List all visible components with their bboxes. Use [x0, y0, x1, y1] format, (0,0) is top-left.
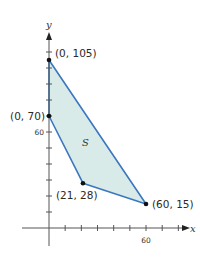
- x-tick-label: 60: [141, 236, 151, 245]
- vertex-label: (21, 28): [56, 189, 98, 201]
- feasible-region-chart: 6060 (0, 105)(60, 15)(21, 28)(0, 70) y x…: [0, 0, 200, 263]
- x-axis-arrow-icon: [182, 225, 190, 231]
- region-label: S: [82, 137, 89, 148]
- region-s: [49, 60, 146, 204]
- vertex-point: [81, 181, 86, 186]
- vertex-point: [144, 202, 149, 207]
- region-polygon: [49, 60, 146, 204]
- vertex-label: (0, 70): [10, 110, 45, 122]
- vertex-label: (0, 105): [55, 47, 97, 59]
- vertex-point: [47, 58, 52, 63]
- vertex-point: [47, 114, 52, 119]
- y-axis-arrow-icon: [46, 32, 52, 40]
- y-axis-label: y: [45, 19, 52, 30]
- x-axis-label: x: [190, 223, 196, 234]
- vertex-label: (60, 15): [152, 198, 194, 210]
- axes: 6060: [22, 32, 190, 246]
- y-tick-label: 60: [34, 128, 44, 137]
